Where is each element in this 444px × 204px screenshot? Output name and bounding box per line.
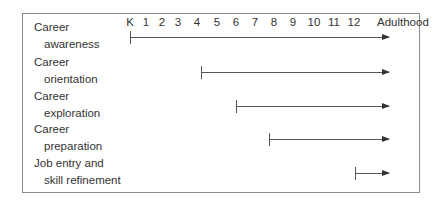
stage-label-line1: Career <box>34 19 100 36</box>
stage-label-line2: skill refinement <box>34 172 121 189</box>
grade-label-4: 4 <box>194 16 200 28</box>
start-tick-icon <box>269 133 270 146</box>
grade-label-8: 8 <box>271 16 277 28</box>
grade-label-11: 11 <box>328 16 340 28</box>
stage-label-line1: Career <box>34 54 98 71</box>
grade-label-6: 6 <box>233 16 239 28</box>
stage-label: Careerawareness <box>34 19 100 53</box>
arrow-right-icon <box>382 103 390 109</box>
grade-label-12: 12 <box>348 16 361 28</box>
grade-label-adulthood: Adulthood <box>377 16 429 28</box>
arrow-right-icon <box>382 170 390 176</box>
grade-label-k: K <box>126 16 134 28</box>
grade-label-1: 1 <box>143 16 149 28</box>
stage-timeline-bar <box>236 106 389 107</box>
grade-label-2: 2 <box>159 16 165 28</box>
grade-label-10: 10 <box>308 16 321 28</box>
stage-label-line2: awareness <box>34 36 100 53</box>
grade-label-9: 9 <box>290 16 296 28</box>
stage-label: Careerorientation <box>34 54 98 88</box>
start-tick-icon <box>236 100 237 113</box>
grade-label-7: 7 <box>252 16 258 28</box>
stage-label-line2: exploration <box>34 105 100 122</box>
stage-label-line1: Job entry and <box>34 155 121 172</box>
stage-timeline-bar <box>355 173 389 174</box>
grade-label-5: 5 <box>214 16 220 28</box>
stage-timeline-bar <box>201 72 389 73</box>
stage-label-line1: Career <box>34 88 100 105</box>
grade-label-3: 3 <box>175 16 181 28</box>
stage-timeline-bar <box>269 139 389 140</box>
arrow-right-icon <box>382 136 390 142</box>
stage-label-line2: preparation <box>34 138 102 155</box>
stage-label: Careerpreparation <box>34 121 102 155</box>
start-tick-icon <box>355 167 356 180</box>
start-tick-icon <box>130 31 131 44</box>
start-tick-icon <box>201 66 202 79</box>
stage-label-line1: Career <box>34 121 102 138</box>
stage-label-line2: orientation <box>34 71 98 88</box>
stage-label: Job entry andskill refinement <box>34 155 121 189</box>
stage-timeline-bar <box>130 37 389 38</box>
arrow-right-icon <box>382 34 390 40</box>
arrow-right-icon <box>382 69 390 75</box>
stage-label: Careerexploration <box>34 88 100 122</box>
